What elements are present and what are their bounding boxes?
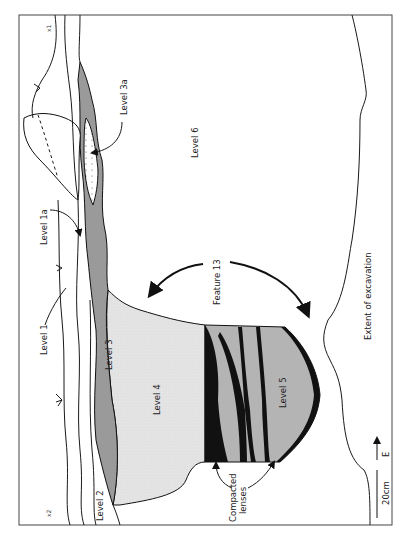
section-drawing: Level 1 Level 1a Level 2 Level 3 Level 3…	[0, 0, 402, 557]
label-scale: 20cm	[381, 481, 391, 505]
label-level-4: Level 4	[152, 384, 162, 415]
label-level-1: Level 1	[39, 324, 49, 355]
label-feature-13: Feature 13	[212, 259, 222, 305]
level-3-band	[78, 62, 117, 505]
label-level-6: Level 6	[190, 127, 200, 158]
label-level-3a: Level 3a	[119, 79, 129, 115]
label-east: E	[381, 452, 391, 457]
label-corner-bottom: x2	[45, 509, 52, 517]
label-compacted-2: lenses	[238, 486, 248, 514]
level-1-leader	[45, 288, 66, 325]
label-compacted-1: Compacted	[228, 473, 238, 522]
label-level-3: Level 3	[104, 339, 114, 370]
label-corner-top: x1	[45, 24, 52, 32]
compacted-arrow-2	[248, 462, 274, 488]
level-2-line	[113, 505, 120, 525]
label-level-2: Level 2	[95, 490, 105, 521]
label-extent-of-excavation: Extent of excavation	[363, 252, 373, 340]
boulder	[24, 114, 81, 201]
label-level-5: Level 5	[278, 377, 288, 408]
level-1a-leader	[50, 210, 80, 235]
horizon-line-1	[32, 15, 70, 525]
feature-arrow-lower	[230, 262, 308, 315]
feature-arrow-upper	[150, 264, 203, 295]
label-level-1a: Level 1a	[39, 209, 49, 245]
